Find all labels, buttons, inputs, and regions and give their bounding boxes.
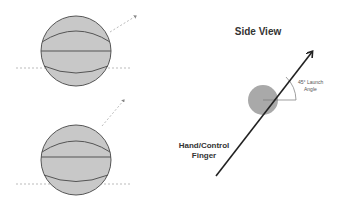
top-ball (16, 16, 136, 86)
angle-label-line1: 45° Launch (298, 79, 324, 85)
bottom-ball-body (41, 125, 111, 195)
side-view: Side View 45° Launch Angle Hand/Control … (179, 26, 324, 176)
side-view-title: Side View (235, 26, 282, 37)
bottom-ball-trajectory (102, 100, 124, 126)
diagram-canvas: Side View 45° Launch Angle Hand/Control … (0, 0, 339, 198)
angle-arc (286, 77, 296, 100)
hand-label-line2: Finger (192, 151, 216, 160)
top-ball-trajectory (110, 16, 136, 32)
launch-arrow (216, 52, 312, 176)
angle-label-line2: Angle (304, 86, 317, 92)
hand-label-line1: Hand/Control (179, 141, 230, 150)
bottom-ball (16, 100, 132, 195)
